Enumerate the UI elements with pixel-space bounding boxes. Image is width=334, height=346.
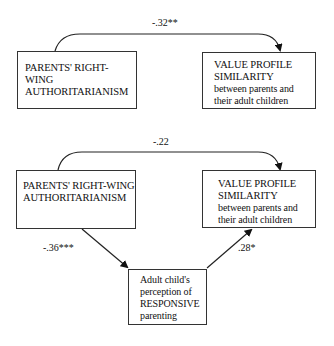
direct-path-arrow-a [55, 34, 280, 51]
predictor-label-line1: PARENTS' RIGHT-WING [25, 62, 136, 86]
mediator-label-line2: perception of [140, 286, 200, 298]
path-a-coefficient: -.36*** [43, 242, 74, 253]
path-b-coefficient: .28* [238, 242, 256, 253]
mediator-box: Adult child's perception of RESPONSIVE p… [128, 269, 207, 325]
mediator-label-line3: RESPONSIVE [140, 298, 200, 310]
direct-coefficient-a: -.32** [152, 17, 178, 28]
predictor-box-b: PARENTS' RIGHT-WING AUTHORITARIANISM [16, 170, 136, 229]
outcome-label-line1: VALUE PROFILE [218, 178, 298, 190]
path-a-arrow [82, 229, 127, 267]
outcome-label-line2: SIMILARITY [218, 190, 298, 202]
outcome-label-line2: SIMILARITY [214, 71, 294, 83]
predictor-label-line2: AUTHORITARIANISM [25, 86, 136, 98]
outcome-box-a: VALUE PROFILE SIMILARITY between parents… [202, 52, 316, 109]
direct-path-arrow-b [58, 152, 280, 170]
outcome-label-line4: their adult children [218, 214, 298, 226]
mediator-label-line4: parenting [140, 310, 200, 322]
outcome-label-line1: VALUE PROFILE [214, 59, 294, 71]
direct-coefficient-b: -.22 [153, 136, 169, 147]
outcome-label-line3: between parents and [214, 83, 294, 95]
predictor-box-a: PARENTS' RIGHT-WING AUTHORITARIANISM [17, 51, 137, 109]
mediator-label-line1: Adult child's [140, 274, 200, 286]
outcome-label-line4: their adult children [214, 95, 294, 107]
outcome-box-b: VALUE PROFILE SIMILARITY between parents… [202, 170, 316, 228]
predictor-label-line2: AUTHORITARIANISM [23, 192, 135, 204]
predictor-label-line1: PARENTS' RIGHT-WING [23, 180, 135, 192]
outcome-label-line3: between parents and [218, 202, 298, 214]
